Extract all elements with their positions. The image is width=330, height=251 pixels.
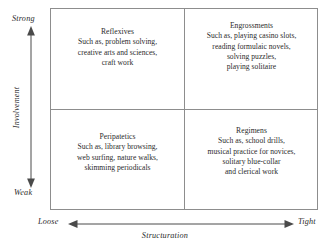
quadrant-peripatetics: Peripatetics Such as, library browsing, … [51,110,184,210]
y-axis-title: Involvement [12,73,21,143]
quadrant-line: web surfing, nature walks, [53,153,182,163]
quadrant-regimens: Regimens Such as, school drills, musical… [185,110,318,210]
quadrant-line: and clerical work [187,167,316,177]
quadrant-engrossments: Engrossments Such as, playing casino slo… [185,9,318,109]
quadrant-line: creative arts and sciences, [53,48,182,58]
quadrant-title: Reflexives [53,27,182,37]
quadrant-line: Such as, playing casino slots, [187,31,316,41]
quadrant-line: solving puzzles, [187,52,316,62]
x-axis-title: Structuration [0,231,330,240]
quadrant-line: musical practice for novices, [187,147,316,157]
quadrant-diagram: Strong Weak Involvement Reflexives Such … [0,0,330,251]
quadrant-line: solitary blue-collar [187,157,316,167]
quadrant-title: Engrossments [187,21,316,31]
quadrant-line: skimming periodicals [53,163,182,173]
y-axis-low-label: Weak [14,188,32,197]
x-axis-low-label: Loose [38,217,59,226]
x-axis-high-label: Tight [298,217,316,226]
y-axis-high-label: Strong [12,14,35,23]
quadrant-title: Regimens [187,126,316,136]
quadrant-title: Peripatetics [53,132,182,142]
quadrant-line: playing solitaire [187,62,316,72]
double-arrow-vertical-icon [24,24,38,194]
quadrant-line: Such as, library browsing, [53,142,182,152]
quadrant-line: craft work [53,58,182,68]
quadrant-reflexives: Reflexives Such as, problem solving, cre… [51,9,184,109]
quadrant-line: Such as, problem solving, [53,37,182,47]
quadrant-line: Such as, school drills, [187,136,316,146]
quadrant-line: reading formulaic novels, [187,42,316,52]
